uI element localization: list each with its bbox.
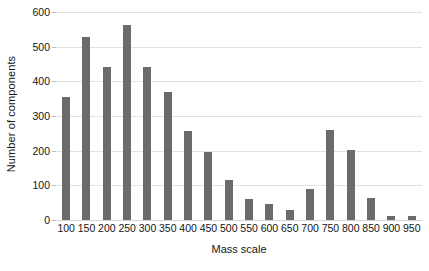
x-axis-tick-label: 250: [117, 222, 137, 238]
bar[interactable]: [62, 97, 70, 220]
bar[interactable]: [245, 199, 253, 220]
x-axis-title: Mass scale: [56, 243, 422, 255]
y-axis-tick-label: 300: [32, 110, 50, 122]
y-axis-tick-label: 500: [32, 41, 50, 53]
x-axis-tick-label: 900: [381, 222, 401, 238]
y-axis-title: Number of components: [0, 0, 22, 228]
bar-slot: [198, 12, 218, 220]
y-axis-tick-label: 600: [32, 6, 50, 18]
bar[interactable]: [265, 204, 273, 220]
bar-slot: [259, 12, 279, 220]
bar[interactable]: [143, 67, 151, 220]
bar-slot: [56, 12, 76, 220]
x-axis-tick-label: 200: [97, 222, 117, 238]
bar-chart: Number of components 6005004003002001000…: [0, 0, 429, 271]
bar[interactable]: [184, 131, 192, 220]
bar[interactable]: [123, 25, 131, 220]
bar-slot: [280, 12, 300, 220]
bar-slot: [178, 12, 198, 220]
y-axis-tick-label: 200: [32, 145, 50, 157]
y-axis-title-text: Number of components: [5, 56, 17, 172]
plot-area: [56, 12, 422, 220]
bar[interactable]: [326, 130, 334, 220]
y-axis-tick-label: 0: [44, 214, 50, 226]
x-axis-tick-label: 850: [361, 222, 381, 238]
bar-slot: [361, 12, 381, 220]
y-axis-tick-mark: [52, 220, 56, 221]
bar-slot: [117, 12, 137, 220]
bar[interactable]: [82, 37, 90, 220]
bar-slot: [341, 12, 361, 220]
bar-slot: [76, 12, 96, 220]
y-axis-tick-labels: 6005004003002001000: [22, 12, 54, 220]
bar-slot: [97, 12, 117, 220]
bar[interactable]: [306, 189, 314, 220]
y-axis-tick-label: 100: [32, 179, 50, 191]
bar[interactable]: [367, 198, 375, 220]
bar-slot: [300, 12, 320, 220]
bar-series: [56, 12, 422, 220]
x-axis-tick-label: 500: [219, 222, 239, 238]
x-axis-tick-label: 650: [280, 222, 300, 238]
bar-slot: [219, 12, 239, 220]
x-axis-tick-label: 950: [402, 222, 422, 238]
x-axis-tick-label: 150: [76, 222, 96, 238]
x-axis-tick-label: 450: [198, 222, 218, 238]
x-axis-tick-label: 100: [56, 222, 76, 238]
bar-slot: [137, 12, 157, 220]
x-axis-tick-label: 750: [320, 222, 340, 238]
x-axis-tick-label: 400: [178, 222, 198, 238]
bar[interactable]: [347, 150, 355, 220]
bar[interactable]: [286, 210, 294, 220]
x-axis-tick-label: 800: [341, 222, 361, 238]
bar-slot: [239, 12, 259, 220]
x-axis-tick-label: 300: [137, 222, 157, 238]
bar[interactable]: [164, 92, 172, 220]
bar-slot: [402, 12, 422, 220]
y-axis-tick-label: 400: [32, 75, 50, 87]
bar-slot: [158, 12, 178, 220]
bar[interactable]: [387, 216, 395, 221]
bar[interactable]: [225, 180, 233, 220]
bar[interactable]: [103, 67, 111, 220]
x-axis-tick-label: 350: [158, 222, 178, 238]
x-axis-tick-label: 550: [239, 222, 259, 238]
bar-slot: [320, 12, 340, 220]
gridline: [56, 220, 422, 221]
bar[interactable]: [204, 152, 212, 220]
x-axis-tick-label: 600: [259, 222, 279, 238]
bar-slot: [381, 12, 401, 220]
bar[interactable]: [408, 216, 416, 220]
x-axis-tick-label: 700: [300, 222, 320, 238]
x-axis-tick-labels: 1001502002503003504004505005506006507007…: [56, 222, 422, 238]
